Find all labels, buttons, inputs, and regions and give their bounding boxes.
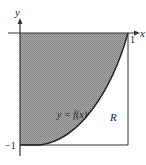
curve-label: y = f(x)	[56, 109, 88, 121]
x-tick-label-one: 1	[130, 34, 135, 45]
x-axis-label: x	[139, 27, 145, 39]
region-label: R	[109, 111, 117, 123]
diagram-canvas: y x 1 −1 y = f(x) R	[0, 0, 146, 165]
y-axis-label: y	[14, 6, 20, 18]
y-axis-arrow-icon	[18, 18, 23, 24]
y-tick-label-neg-one: −1	[5, 140, 16, 151]
shaded-region	[20, 33, 128, 145]
